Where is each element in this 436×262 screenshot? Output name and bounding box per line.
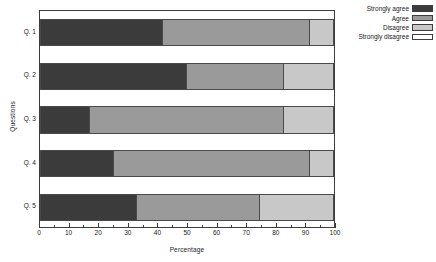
x-axis-tick-label: 90 <box>290 229 320 236</box>
x-axis-tick-label: 100 <box>320 229 350 236</box>
bar-segment <box>40 63 187 90</box>
x-axis-title: Percentage <box>39 246 335 253</box>
bar-segment <box>40 19 163 46</box>
bar-segment <box>260 194 334 221</box>
x-axis-tick-label: 10 <box>54 229 84 236</box>
x-axis-major-tick <box>98 223 99 228</box>
y-axis-tick-label: Q. 3 <box>8 116 36 123</box>
bar-row <box>40 194 334 221</box>
x-axis-major-tick <box>187 223 188 228</box>
x-axis-major-tick <box>217 223 218 228</box>
chart-legend: Strongly agreeAgreeDisagreeStrongly disa… <box>335 4 433 42</box>
x-axis-major-tick <box>276 223 277 228</box>
legend-item-label: Disagree <box>383 24 409 31</box>
x-axis-minor-tick <box>231 225 232 228</box>
x-axis-tick-label: 40 <box>142 229 172 236</box>
x-axis-tick-label: 20 <box>83 229 113 236</box>
bar-segment <box>40 150 114 177</box>
x-axis-major-tick <box>157 223 158 228</box>
bar-segment <box>284 106 334 133</box>
x-axis-minor-tick <box>54 225 55 228</box>
x-axis-tick-label: 80 <box>261 229 291 236</box>
x-axis-major-tick <box>39 223 40 228</box>
bar-segment <box>187 63 284 90</box>
bar-series-container <box>40 11 334 227</box>
y-axis-tick-label: Q. 5 <box>8 203 36 210</box>
x-axis-tick-label: 30 <box>113 229 143 236</box>
y-axis-tick-labels: Q. 1Q. 2Q. 3Q. 4Q. 5 <box>0 0 36 262</box>
bar-segment <box>310 19 334 46</box>
bar-row <box>40 19 334 46</box>
x-axis-tick-label: 70 <box>231 229 261 236</box>
bar-segment <box>40 106 90 133</box>
y-axis-tick-label: Q. 1 <box>8 29 36 36</box>
x-axis-major-tick <box>69 223 70 228</box>
x-axis-minor-tick <box>320 225 321 228</box>
x-axis-tick-label: 0 <box>24 229 54 236</box>
x-axis-tick-label: 50 <box>172 229 202 236</box>
x-axis-minor-tick <box>202 225 203 228</box>
legend-color-swatch <box>412 24 433 31</box>
legend-item-label: Agree <box>392 15 409 22</box>
legend-color-swatch <box>412 34 433 41</box>
bar-segment <box>163 19 310 46</box>
bar-row <box>40 63 334 90</box>
legend-color-swatch <box>412 15 433 22</box>
x-axis-minor-tick <box>261 225 262 228</box>
x-axis-minor-tick <box>172 225 173 228</box>
bar-segment <box>284 63 334 90</box>
x-axis-minor-tick <box>143 225 144 228</box>
bar-segment <box>40 194 137 221</box>
x-axis-major-tick <box>305 223 306 228</box>
y-axis-tick-label: Q. 4 <box>8 159 36 166</box>
bar-segment <box>114 150 311 177</box>
legend-item-label: Strongly disagree <box>358 33 409 40</box>
stacked-bar-chart-figure: Questions Q. 1Q. 2Q. 3Q. 4Q. 5 010203040… <box>0 0 436 262</box>
plot-area <box>39 10 335 228</box>
legend-item[interactable]: Agree <box>335 13 433 22</box>
legend-item[interactable]: Strongly agree <box>335 4 433 13</box>
legend-item-label: Strongly agree <box>367 5 409 12</box>
bar-row <box>40 106 334 133</box>
x-axis-tick-label: 60 <box>202 229 232 236</box>
x-axis-major-tick <box>128 223 129 228</box>
bar-segment <box>90 106 284 133</box>
y-axis-tick-label: Q. 2 <box>8 72 36 79</box>
bar-segment <box>310 150 334 177</box>
x-axis-minor-tick <box>113 225 114 228</box>
x-axis-major-tick <box>246 223 247 228</box>
legend-color-swatch <box>412 5 433 12</box>
x-axis-major-tick <box>335 223 336 228</box>
x-axis-minor-tick <box>83 225 84 228</box>
legend-item[interactable]: Strongly disagree <box>335 32 433 41</box>
bar-row <box>40 150 334 177</box>
legend-item[interactable]: Disagree <box>335 23 433 32</box>
x-axis-minor-tick <box>291 225 292 228</box>
bar-segment <box>137 194 260 221</box>
